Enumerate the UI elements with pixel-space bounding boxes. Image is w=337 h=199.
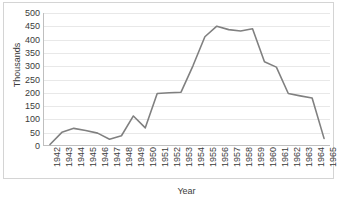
series-line-thousands — [44, 13, 330, 145]
x-tick-label: 1955 — [209, 147, 218, 181]
x-tick-label: 1942 — [53, 147, 62, 181]
x-tick-label: 1962 — [293, 147, 302, 181]
x-axis-title: Year — [43, 186, 330, 196]
x-tick-label: 1963 — [305, 147, 314, 181]
x-tick-label: 1965 — [329, 147, 337, 181]
x-tick-label: 1953 — [185, 147, 194, 181]
x-tick-label: 1949 — [137, 147, 146, 181]
y-tick-label: 150 — [14, 102, 40, 111]
y-tick-label: 450 — [14, 22, 40, 31]
x-tick-label: 1960 — [269, 147, 278, 181]
y-tick-label: 100 — [14, 115, 40, 124]
x-tick-label: 1944 — [77, 147, 86, 181]
x-tick-label: 1958 — [245, 147, 254, 181]
y-tick-label: 300 — [14, 62, 40, 71]
x-tick-label: 1957 — [233, 147, 242, 181]
series-polyline — [50, 26, 324, 144]
y-tick-label: 50 — [14, 129, 40, 138]
y-tick-label: 350 — [14, 49, 40, 58]
x-tick-label: 1945 — [89, 147, 98, 181]
x-tick-label: 1947 — [113, 147, 122, 181]
x-tick-label: 1952 — [173, 147, 182, 181]
y-axis-tick-labels: 050100150200250300350400450500 — [14, 8, 40, 148]
x-tick-label: 1961 — [281, 147, 290, 181]
x-tick-label: 1951 — [161, 147, 170, 181]
x-tick-label: 1959 — [257, 147, 266, 181]
y-tick-label: 500 — [14, 9, 40, 18]
x-tick-label: 1948 — [125, 147, 134, 181]
x-axis-tick-labels: 1942194319441945194619471948194919501951… — [43, 147, 330, 185]
x-tick-label: 1964 — [317, 147, 326, 181]
y-tick-label: 200 — [14, 89, 40, 98]
y-tick-label: 400 — [14, 36, 40, 45]
y-tick-label: 250 — [14, 76, 40, 85]
x-tick-label: 1946 — [101, 147, 110, 181]
x-tick-label: 1954 — [197, 147, 206, 181]
line-chart-figure: Thousands 050100150200250300350400450500… — [0, 0, 337, 199]
y-tick-label: 0 — [14, 142, 40, 151]
x-tick-label: 1950 — [149, 147, 158, 181]
plot-area — [43, 13, 330, 146]
x-tick-label: 1943 — [65, 147, 74, 181]
x-tick-label: 1956 — [221, 147, 230, 181]
